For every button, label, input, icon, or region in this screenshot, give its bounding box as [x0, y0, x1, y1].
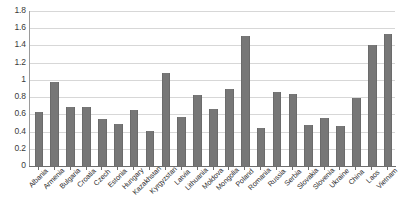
bar: [257, 128, 266, 166]
y-axis-tick-label: 0.2: [14, 144, 26, 153]
y-axis-tick-label: 0.4: [14, 127, 26, 136]
y-axis-tick-label: 1.6: [14, 23, 26, 32]
bar: [82, 107, 91, 166]
y-axis-tick-label: 1: [21, 75, 26, 84]
bar: [368, 45, 377, 166]
y-axis-tick-label: 0.6: [14, 109, 26, 118]
bar: [336, 126, 345, 166]
bar: [352, 98, 361, 166]
y-axis-tick-label: 0.8: [14, 92, 26, 101]
bar: [304, 125, 313, 166]
bar: [320, 118, 329, 166]
bar-chart: 1.81.61.41.210.80.60.40.20 AlbaniaArmeni…: [0, 0, 401, 217]
bar: [289, 94, 298, 166]
bar: [114, 124, 123, 166]
bar: [50, 82, 59, 166]
x-axis-tick-label: China: [347, 167, 366, 186]
bar: [130, 110, 139, 166]
y-axis-tick-label: 1.8: [14, 6, 26, 15]
bars-layer: [30, 11, 395, 166]
bar: [193, 95, 202, 166]
bar: [241, 36, 250, 166]
bar: [98, 119, 107, 166]
bar: [177, 117, 186, 166]
bar: [162, 73, 171, 166]
y-axis-tick-label: 1.2: [14, 58, 26, 67]
y-axis-tick-labels: 1.81.61.41.210.80.60.40.20: [0, 0, 26, 217]
y-axis-tick-label: 1.4: [14, 40, 26, 49]
bar: [66, 107, 75, 166]
y-axis-tick-label: 0: [21, 161, 26, 170]
bar: [146, 131, 155, 166]
bar: [209, 109, 218, 166]
bar: [384, 34, 393, 166]
bar: [225, 89, 234, 167]
bar: [273, 92, 282, 166]
bar: [35, 112, 44, 166]
